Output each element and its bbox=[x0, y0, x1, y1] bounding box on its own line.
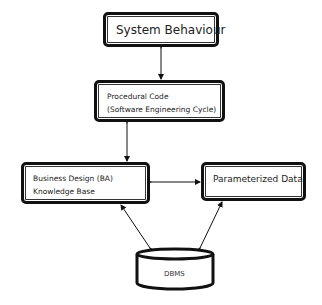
node-label-line2: (Software Engineering Cycle) bbox=[107, 105, 216, 114]
edge-dbms-param bbox=[200, 202, 222, 248]
node-label-line1: Procedural Code bbox=[107, 92, 169, 101]
edge-dbms-business bbox=[121, 205, 150, 248]
node-parameterized-data: Parameterized Data bbox=[201, 162, 306, 201]
node-label: System Behaviour bbox=[116, 23, 225, 37]
dbms-cylinder-icon bbox=[137, 249, 213, 289]
node-label-line1: Business Design (BA) bbox=[33, 174, 113, 183]
node-system-behaviour: System Behaviour bbox=[103, 12, 219, 47]
node-procedural-code: Procedural Code (Software Engineering Cy… bbox=[94, 80, 225, 122]
node-label: Parameterized Data bbox=[213, 174, 303, 184]
node-dbms-label: DBMS bbox=[164, 270, 185, 278]
node-label-line2: Knowledge Base bbox=[33, 187, 95, 196]
node-business-design: Business Design (BA) Knowledge Base bbox=[21, 162, 150, 204]
